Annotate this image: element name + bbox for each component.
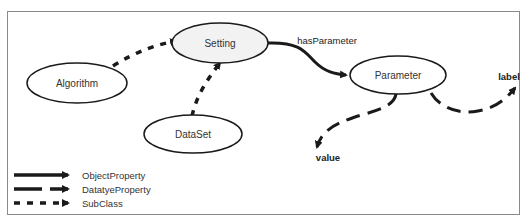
edge-setting-parameter <box>268 43 346 75</box>
edge-label-value: value <box>316 152 340 163</box>
edge-parameter-value <box>317 94 396 147</box>
legend-label-datatype-property: DatatyeProperty <box>82 184 151 195</box>
node-label-dataset: DataSet <box>175 129 211 140</box>
legend-label-object-property: ObjectProperty <box>82 170 145 181</box>
node-label-algorithm: Algorithm <box>56 78 98 89</box>
edge-label-has-parameter: hasParameter <box>297 35 357 46</box>
edge-algorithm-setting <box>113 41 176 66</box>
node-label-setting: Setting <box>204 38 235 49</box>
edge-dataset-setting <box>192 63 220 116</box>
edge-parameter-label <box>431 88 515 112</box>
diagram-canvas <box>0 0 532 221</box>
edge-label-label: label <box>498 71 520 82</box>
legend-label-subclass: SubClass <box>82 198 123 209</box>
node-label-parameter: Parameter <box>375 70 422 81</box>
